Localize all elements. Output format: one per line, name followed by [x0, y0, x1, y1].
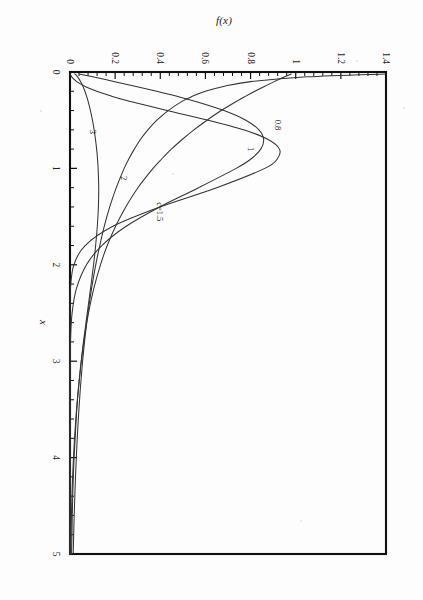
x-tick-label: 3 [51, 359, 61, 364]
x-axis-title: x [38, 320, 50, 325]
y-tick-label: 0 [65, 59, 75, 64]
y-tick-label: 0.4 [155, 52, 165, 64]
plot-canvas [22, 20, 402, 580]
curve-label-c-2: 2 [119, 176, 129, 180]
weibull-pdf-figure: x f(x) 01234500.20.40.60.811.21.4 0.81c=… [22, 20, 402, 580]
y-axis-title: f(x) [215, 14, 231, 26]
y-tick-label: 1.4 [381, 52, 391, 64]
curve-c-1 [71, 74, 291, 554]
curve-label-c-1.5: c=1.5 [155, 202, 165, 221]
scanned-page: x f(x) 01234500.20.40.60.811.21.4 0.81c=… [0, 0, 423, 600]
y-tick-label: 0.2 [110, 52, 120, 64]
curve-label-c-1: 1 [245, 147, 255, 151]
x-tick-label: 5 [51, 552, 61, 557]
y-tick-label: 0.6 [200, 52, 210, 64]
curve-label-c-0.8: 0.8 [272, 120, 282, 131]
x-tick-label: 0 [51, 70, 61, 75]
x-tick-label: 2 [51, 262, 61, 267]
y-tick-label: 0.8 [245, 52, 255, 64]
y-tick-label: 1 [290, 59, 300, 64]
scan-speckle [403, 107, 405, 109]
curve-c-2 [70, 74, 264, 554]
curve-label-c-3: 3 [87, 130, 97, 134]
curve-c-0.8 [73, 74, 386, 554]
y-tick-label: 1.2 [335, 52, 345, 64]
x-tick-label: 4 [51, 455, 61, 460]
curve-c-1.5 [70, 74, 98, 554]
figure-rotated-wrapper: x f(x) 01234500.20.40.60.811.21.4 0.81c=… [22, 20, 402, 580]
x-tick-label: 1 [51, 166, 61, 171]
